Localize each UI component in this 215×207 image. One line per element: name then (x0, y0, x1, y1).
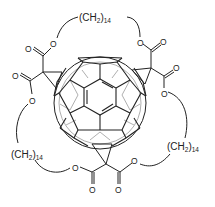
oxygen-label: O (131, 156, 138, 166)
chain-label-top: (CH2)14 (79, 12, 111, 24)
chain-label-left: (CH2)14 (11, 149, 43, 161)
oxygen-label: O (12, 71, 19, 81)
oxygen-label: O (160, 37, 167, 47)
oxygen-label: O (173, 63, 180, 73)
malonate-right (143, 43, 174, 88)
fullerene-trisadduct-diagram: O O O O O O O O O O O O (CH (0, 0, 215, 207)
oxygen-label: O (115, 185, 122, 195)
oxygen-label: O (25, 44, 32, 54)
malonate-bottom (80, 163, 132, 184)
chain-label-right: (CH2)14 (167, 141, 199, 153)
oxygen-label: O (137, 38, 144, 48)
cyclopropane-left (43, 72, 62, 88)
malonate-left (20, 47, 51, 94)
cyclopropane-bottom (92, 144, 112, 164)
oxygen-label: O (50, 39, 57, 49)
oxygen-label: O (89, 185, 96, 195)
oxygen-label: O (29, 96, 36, 106)
oxygen-label: O (161, 89, 168, 99)
oxygen-label: O (72, 163, 79, 173)
